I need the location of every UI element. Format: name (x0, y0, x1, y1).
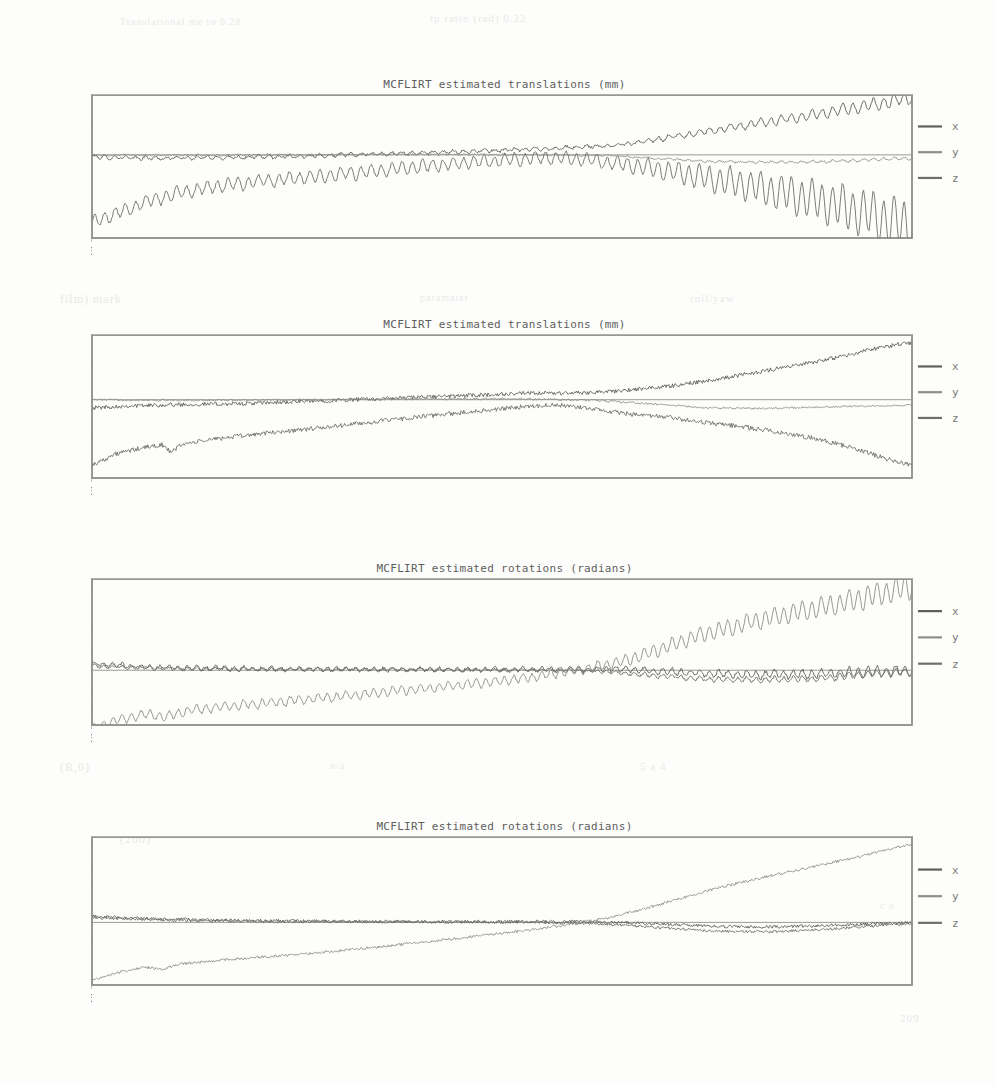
legend-label-y: y (952, 386, 959, 399)
bottom-clip-mask (92, 726, 912, 751)
plot-frame (92, 579, 912, 725)
legend-label-x: x (952, 120, 959, 133)
series-line-z (92, 664, 912, 683)
chart-title: MCFLIRT estimated rotations (radians) (0, 820, 995, 833)
plot-frame (92, 837, 912, 985)
scan-artifact-text: (R,0) (60, 760, 90, 775)
legend-label-x: x (952, 605, 959, 618)
chart-title: MCFLIRT estimated rotations (radians) (0, 562, 995, 575)
legend-label-z: z (952, 172, 959, 185)
scan-artifact-text: film) mark (60, 292, 122, 307)
legend-label-z: z (952, 412, 959, 425)
bottom-clip-mask (92, 986, 912, 1011)
scan-artifact-text: Translational me to 0.28 (120, 16, 241, 27)
series-line-y (92, 843, 912, 980)
series-line-z (92, 917, 912, 933)
scan-artifact-text: tp ratio (rad) 0.22 (430, 12, 527, 24)
left-clip-mask (0, 333, 91, 504)
legend-label-x: x (952, 864, 959, 877)
plot-frame-overlay (92, 837, 912, 985)
plot-area: 0.50.0-0.5-1.00100200300400500600700800x… (0, 93, 995, 264)
series-line-x (92, 93, 912, 161)
legend-label-y: y (952, 631, 959, 644)
chart-panel: MCFLIRT estimated translations (mm)0.50.… (0, 78, 995, 264)
bottom-clip-mask (92, 479, 912, 504)
series-line-x (92, 915, 912, 928)
plot-area: 0.0200.0150.0100.0050.000-0.005-0.010010… (0, 577, 995, 751)
scan-artifact-text: 5 a 4 (640, 760, 666, 772)
scan-artifact-text: 209 (900, 1012, 920, 1024)
series-line-z (92, 403, 912, 467)
legend-label-y: y (952, 890, 959, 903)
chart-panel: MCFLIRT estimated rotations (radians)0.0… (0, 820, 995, 1011)
plot-frame-overlay (92, 95, 912, 238)
chart-title: MCFLIRT estimated translations (mm) (0, 78, 995, 91)
scan-artifact-text: paramater (420, 292, 469, 303)
chart-panel: MCFLIRT estimated rotations (radians)0.0… (0, 562, 995, 751)
left-clip-mask (0, 93, 91, 264)
plot-area: 0.50.0-0.5-1.00100200300400500600700800x… (0, 333, 995, 504)
plot-area: 0.0200.0150.0100.0050.000-0.005-0.010-0.… (0, 835, 995, 1011)
legend-label-z: z (952, 658, 959, 671)
series-line-y (92, 577, 912, 731)
legend-label-x: x (952, 360, 959, 373)
bottom-clip-mask (92, 239, 912, 264)
scan-artifact-text: roll/yaw (690, 292, 735, 304)
plot-frame-overlay (92, 579, 912, 725)
scan-artifact-text: n/a (330, 760, 345, 771)
legend-label-z: z (952, 917, 959, 930)
left-clip-mask (0, 577, 91, 751)
chart-title: MCFLIRT estimated translations (mm) (0, 318, 995, 331)
chart-panel: MCFLIRT estimated translations (mm)0.50.… (0, 318, 995, 504)
series-line-z (92, 151, 912, 244)
plot-frame (92, 95, 912, 238)
left-clip-mask (0, 835, 91, 1011)
legend-label-y: y (952, 146, 959, 159)
